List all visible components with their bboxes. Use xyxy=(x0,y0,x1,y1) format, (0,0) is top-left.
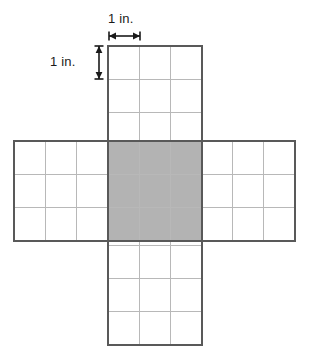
cross-net-diagram xyxy=(0,0,310,359)
arrow-head-left xyxy=(109,33,116,40)
width-dimension-label: 1 in. xyxy=(108,11,134,26)
figure-container: 1 in. 1 in. xyxy=(0,0,310,359)
arrow-head-bottom xyxy=(96,72,103,79)
arrow-head-top xyxy=(96,46,103,53)
height-dimension-arrow xyxy=(95,46,104,79)
shaded-center-region xyxy=(108,141,202,241)
arrow-head-right xyxy=(133,33,140,40)
height-dimension-label: 1 in. xyxy=(50,54,76,69)
width-dimension-arrow xyxy=(109,32,140,41)
